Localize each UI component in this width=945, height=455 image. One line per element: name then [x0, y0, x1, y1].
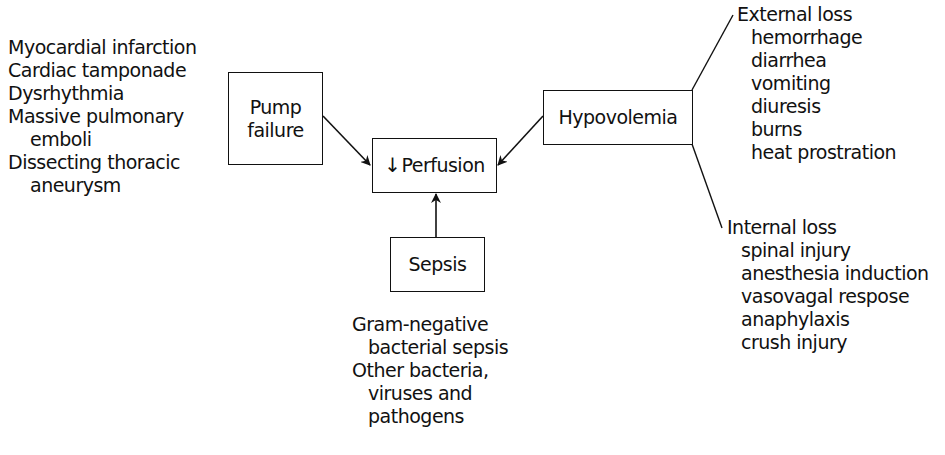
perfusion-label: Perfusion [401, 154, 484, 177]
internal-loss-item: crush injury [727, 331, 929, 354]
cause-item: Myocardial infarction [8, 36, 197, 59]
cause-item: Dysrhythmia [8, 82, 197, 105]
sepsis-cause-item: Other bacteria, [352, 359, 508, 382]
pump-failure-node: Pump failure [228, 72, 323, 165]
cause-item: Dissecting thoracic [8, 151, 197, 174]
sepsis-cause-item-continued: viruses and [352, 382, 508, 405]
internal-loss-branch-line [692, 144, 722, 228]
hypovolemia-label: Hypovolemia [559, 106, 678, 129]
cause-item: Massive pulmonary [8, 105, 197, 128]
hypovolemia-node: Hypovolemia [543, 90, 693, 145]
decrease-arrow-icon: ↓ [384, 154, 400, 177]
external-loss-item: diuresis [737, 95, 896, 118]
cause-item-continued: emboli [8, 128, 197, 151]
pump-failure-label-line2: failure [247, 119, 304, 142]
internal-loss-list: Internal loss spinal injury anesthesia i… [727, 216, 929, 354]
pump-to-perfusion-arrow [323, 116, 370, 165]
external-loss-item: burns [737, 118, 896, 141]
sepsis-cause-item-continued: pathogens [352, 405, 508, 428]
sepsis-node: Sepsis [390, 237, 485, 292]
internal-loss-heading: Internal loss [727, 216, 929, 239]
internal-loss-item: anesthesia induction [727, 262, 929, 285]
cause-item: Cardiac tamponade [8, 59, 197, 82]
external-loss-list: External loss hemorrhage diarrhea vomiti… [737, 3, 896, 164]
external-loss-item: hemorrhage [737, 26, 896, 49]
sepsis-cause-item-continued: bacterial sepsis [352, 336, 508, 359]
external-loss-heading: External loss [737, 3, 896, 26]
external-loss-item: heat prostration [737, 141, 896, 164]
internal-loss-item: anaphylaxis [727, 308, 929, 331]
external-loss-branch-line [692, 15, 733, 90]
pump-causes-list: Myocardial infarction Cardiac tamponade … [8, 36, 197, 197]
sepsis-label: Sepsis [409, 253, 467, 276]
sepsis-causes-list: Gram-negative bacterial sepsis Other bac… [352, 313, 508, 428]
hypovolemia-to-perfusion-arrow [498, 116, 543, 165]
external-loss-item: diarrhea [737, 49, 896, 72]
cause-item-continued: aneurysm [8, 174, 197, 197]
sepsis-cause-item: Gram-negative [352, 313, 508, 336]
internal-loss-item: vasovagal respose [727, 285, 929, 308]
perfusion-node: ↓ Perfusion [372, 138, 497, 193]
pump-failure-label-line1: Pump [250, 96, 302, 119]
external-loss-item: vomiting [737, 72, 896, 95]
internal-loss-item: spinal injury [727, 239, 929, 262]
